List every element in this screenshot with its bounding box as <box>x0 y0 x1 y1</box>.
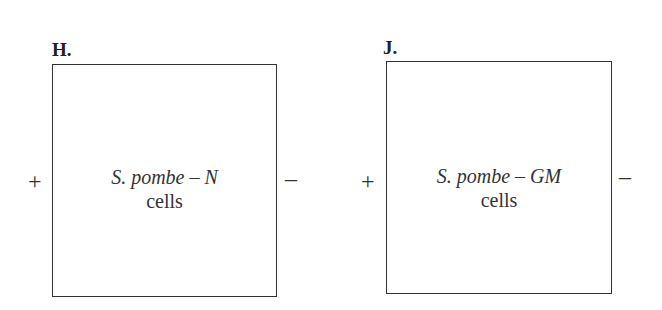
panel-h-minus-sign: – <box>285 166 297 190</box>
panel-h-plus-sign: + <box>28 169 42 193</box>
panel-h-label: H. <box>52 40 72 59</box>
panel-j-minus-sign: – <box>619 164 631 188</box>
panel-j-cells: cells <box>387 188 611 212</box>
panel-j-box: S. pombe – GM cells <box>386 61 612 294</box>
panel-j-plus-sign: + <box>361 169 375 193</box>
panel-h-box: S. pombe – N cells <box>52 64 277 297</box>
panel-h-species: S. pombe – N <box>53 165 276 189</box>
panel-h-box-text: S. pombe – N cells <box>53 165 276 213</box>
panel-h-cells: cells <box>53 189 276 213</box>
panel-j-label: J. <box>383 38 397 57</box>
panel-j-box-text: S. pombe – GM cells <box>387 164 611 212</box>
panel-j-species: S. pombe – GM <box>387 164 611 188</box>
